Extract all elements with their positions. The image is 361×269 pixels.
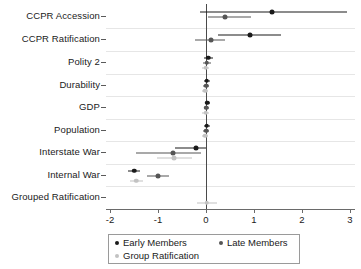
confidence-interval (175, 147, 206, 148)
y-axis-label: Interstate War (39, 147, 100, 157)
legend-item-late-members: Late Members (219, 238, 288, 248)
y-axis-label: Polity 2 (68, 57, 100, 67)
y-axis-tick (101, 16, 106, 17)
gridline (106, 119, 355, 120)
legend-row-1: Early Members Late Members (115, 238, 288, 248)
y-axis-label: Durability (59, 80, 100, 90)
data-point (205, 78, 210, 83)
y-axis-label: Internal War (47, 170, 100, 180)
x-axis-tick (158, 209, 159, 213)
x-axis-tick-label: -2 (106, 215, 114, 225)
y-axis-tick (101, 197, 106, 198)
gridline (106, 28, 355, 29)
y-axis-tick (101, 152, 106, 153)
legend-dot-early-members (115, 241, 119, 245)
x-axis-tick-label: -1 (154, 215, 162, 225)
y-axis-tick (101, 85, 106, 86)
x-axis-line (106, 209, 355, 210)
y-axis-tick (101, 175, 106, 176)
gridline (106, 186, 355, 187)
y-axis-tick (101, 130, 106, 131)
confidence-interval (136, 152, 201, 153)
y-axis-label: Population (54, 125, 100, 135)
y-axis-label: GDP (79, 102, 100, 112)
legend: Early Members Late Members Group Ratific… (108, 234, 300, 264)
x-axis-tick (350, 209, 351, 213)
data-point (204, 105, 209, 110)
plot-area: CCPR AccessionCCPR RatificationPolity 2D… (0, 0, 361, 269)
data-point (156, 173, 161, 178)
y-axis-tick (101, 107, 106, 108)
x-axis-tick (206, 209, 207, 213)
legend-label-group-ratification: Group Ratification (123, 251, 199, 261)
data-point (203, 110, 208, 115)
x-axis-tick (302, 209, 303, 213)
data-point (205, 200, 210, 205)
y-axis-tick (101, 39, 106, 40)
coefficient-plot: CCPR AccessionCCPR RatificationPolity 2D… (0, 0, 361, 269)
gridline (106, 74, 355, 75)
legend-dot-group-ratification (115, 254, 119, 258)
data-point (208, 37, 213, 42)
data-point (172, 155, 177, 160)
x-axis-tick-label: 0 (203, 215, 208, 225)
x-axis-tick (254, 209, 255, 213)
data-point (206, 55, 211, 60)
data-point (204, 128, 209, 133)
x-axis-tick (110, 209, 111, 213)
data-point (204, 83, 209, 88)
data-point (205, 60, 210, 65)
data-point (248, 32, 253, 37)
legend-dot-late-members (219, 241, 223, 245)
gridline (106, 164, 355, 165)
legend-item-early-members: Early Members (115, 238, 187, 248)
data-point (193, 145, 198, 150)
data-point (134, 178, 139, 183)
legend-item-group-ratification: Group Ratification (115, 251, 199, 261)
x-axis-tick-label: 2 (299, 215, 304, 225)
gridline (106, 51, 355, 52)
data-point (205, 123, 210, 128)
data-point (270, 9, 275, 14)
y-axis-tick (101, 62, 106, 63)
confidence-interval (208, 16, 251, 17)
y-axis-label: Grouped Ratification (11, 192, 100, 202)
legend-row-2: Group Ratification (115, 251, 199, 261)
gridline (106, 141, 355, 142)
data-point (203, 133, 208, 138)
data-point (203, 88, 208, 93)
x-axis-tick-label: 1 (251, 215, 256, 225)
y-axis-label: CCPR Ratification (22, 34, 100, 44)
data-point (203, 65, 208, 70)
x-axis-tick-label: 3 (347, 215, 352, 225)
data-point (205, 100, 210, 105)
data-point (132, 168, 137, 173)
gridline (106, 96, 355, 97)
data-point (223, 14, 228, 19)
legend-label-early-members: Early Members (123, 238, 187, 248)
y-axis-label: CCPR Accession (26, 11, 100, 21)
legend-label-late-members: Late Members (227, 238, 288, 248)
